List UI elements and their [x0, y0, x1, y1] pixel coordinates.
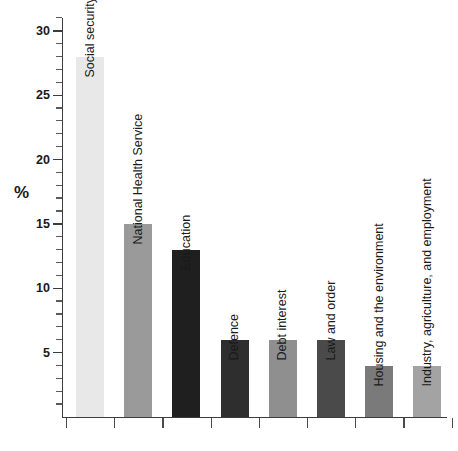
- y-tick-minor: [56, 236, 62, 237]
- y-tick-minor: [56, 262, 62, 263]
- bar-category-label: Education: [179, 215, 192, 271]
- y-tick-major: [53, 159, 62, 160]
- y-tick-major: [53, 288, 62, 289]
- y-tick-minor: [56, 120, 62, 121]
- y-tick-minor: [56, 378, 62, 379]
- y-tick-minor: [56, 172, 62, 173]
- bar-category-label: Housing and the environment: [372, 223, 385, 386]
- y-tick-label: 5: [8, 347, 50, 360]
- y-tick-minor: [56, 107, 62, 108]
- x-tick: [259, 418, 260, 428]
- x-tick: [307, 418, 308, 428]
- y-tick-minor: [56, 326, 62, 327]
- y-tick-major: [53, 30, 62, 31]
- y-tick-major: [53, 95, 62, 96]
- x-tick: [211, 418, 212, 428]
- y-tick-minor: [56, 403, 62, 404]
- bar: [76, 57, 104, 417]
- y-tick-minor: [56, 56, 62, 57]
- y-tick-label: 10: [8, 282, 50, 295]
- bar-chart: % 51015202530 Social securityNational He…: [0, 0, 458, 451]
- y-tick-minor: [56, 339, 62, 340]
- bar: [124, 224, 152, 417]
- y-tick-label: 25: [8, 89, 50, 102]
- bar-category-label: Social security: [83, 0, 96, 77]
- y-tick-minor: [56, 185, 62, 186]
- y-tick-major: [53, 223, 62, 224]
- y-tick-minor: [56, 43, 62, 44]
- y-tick-minor: [56, 391, 62, 392]
- x-tick: [452, 418, 453, 428]
- y-tick-minor: [56, 133, 62, 134]
- bar-category-label: Law and order: [324, 280, 337, 360]
- x-tick: [162, 418, 163, 428]
- bar-category-label: Debt interest: [276, 289, 289, 360]
- y-tick-label: 30: [8, 25, 50, 38]
- bar-category-label: Industry, agriculture, and employment: [420, 178, 433, 386]
- y-tick-minor: [56, 146, 62, 147]
- y-tick-minor: [56, 249, 62, 250]
- bar: [172, 250, 200, 417]
- y-tick-minor: [56, 210, 62, 211]
- y-tick-label: 15: [8, 218, 50, 231]
- x-tick: [114, 418, 115, 428]
- x-tick: [66, 418, 67, 428]
- x-axis-line: [62, 417, 447, 418]
- y-tick-label: 20: [8, 154, 50, 167]
- x-tick: [355, 418, 356, 428]
- y-tick-minor: [56, 313, 62, 314]
- y-tick-minor: [56, 275, 62, 276]
- y-tick-minor: [56, 69, 62, 70]
- y-axis-line: [62, 18, 63, 418]
- x-tick: [403, 418, 404, 428]
- y-tick-minor: [56, 82, 62, 83]
- y-tick-minor: [56, 300, 62, 301]
- y-tick-minor: [56, 365, 62, 366]
- bar-category-label: Defence: [228, 314, 241, 361]
- y-axis-label: %: [14, 183, 29, 203]
- y-tick-minor: [56, 17, 62, 18]
- y-tick-major: [53, 352, 62, 353]
- y-tick-minor: [56, 197, 62, 198]
- bar-category-label: National Health Service: [131, 114, 144, 245]
